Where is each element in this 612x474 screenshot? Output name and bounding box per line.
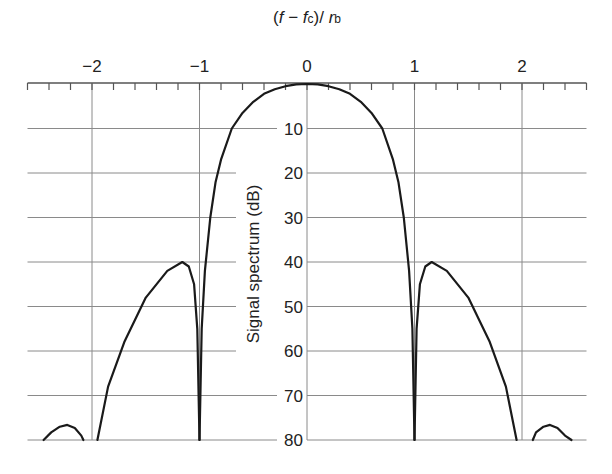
x-axis-title: (f − fc)/ rb [273,8,341,27]
x-tick-label: 2 [517,57,526,76]
spectrum-segment [533,425,572,440]
y-tick-label: 20 [284,164,303,183]
y-tick-label: 30 [284,209,303,228]
y-tick-label: 60 [284,342,303,361]
x-tick-label: 0 [302,57,311,76]
y-tick-label: 10 [284,120,303,139]
y-tick-label: 50 [284,298,303,317]
signal-spectrum-chart: −2−1012 1020304050607080 (f − fc)/ rb Si… [0,0,612,474]
y-tick-label: 70 [284,387,303,406]
y-tick-labels: 1020304050607080 [284,120,303,451]
y-axis-title: Signal spectrum (dB) [244,185,263,344]
grid-lines [28,84,587,440]
x-tick-label: 1 [410,57,419,76]
spectrum-segment [44,425,84,440]
y-tick-label: 40 [284,253,303,272]
x-tick-label: −1 [190,57,209,76]
y-tick-label: 80 [284,431,303,450]
x-tick-label: −2 [82,57,101,76]
x-tick-labels: −2−1012 [82,57,526,76]
